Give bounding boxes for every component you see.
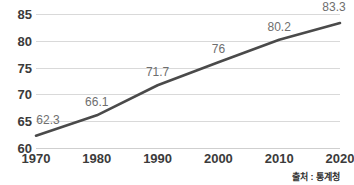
data-point-label: 66.1 bbox=[85, 96, 108, 108]
y-tick-label: 70 bbox=[2, 88, 32, 101]
data-point-label: 83.3 bbox=[322, 1, 345, 13]
x-tick-label: 1990 bbox=[143, 152, 172, 165]
data-point-label: 76 bbox=[212, 43, 225, 55]
data-point-label: 71.7 bbox=[146, 66, 169, 78]
x-tick-label: 1980 bbox=[82, 152, 111, 165]
x-tick-label: 2020 bbox=[326, 152, 354, 165]
data-point-label: 80.2 bbox=[268, 21, 291, 33]
data-point-label: 62.3 bbox=[36, 114, 59, 126]
y-tick-label: 85 bbox=[2, 8, 32, 21]
y-tick-label: 80 bbox=[2, 34, 32, 47]
series-line bbox=[36, 14, 340, 148]
plot-area: 62.366.171.77680.283.3 bbox=[36, 14, 340, 148]
gridline-baseline bbox=[36, 148, 340, 149]
y-tick-label: 75 bbox=[2, 61, 32, 74]
y-axis: 85 80 75 70 65 60 bbox=[0, 14, 32, 148]
x-tick-label: 2000 bbox=[204, 152, 233, 165]
x-axis: 1970 1980 1990 2000 2010 2020 bbox=[36, 152, 340, 170]
x-tick-label: 2010 bbox=[265, 152, 294, 165]
x-tick-label: 1970 bbox=[22, 152, 51, 165]
y-tick-label: 65 bbox=[2, 115, 32, 128]
source-attribution: 출처 : 통계청 bbox=[292, 173, 340, 182]
